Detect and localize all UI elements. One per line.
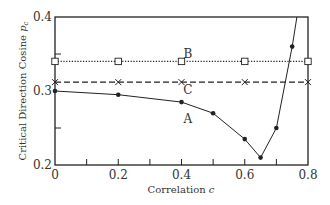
axis-ticks: 00.20.40.60.80.20.30.4 xyxy=(33,10,318,182)
curve-label-a: A xyxy=(182,112,192,126)
circle-marker xyxy=(116,92,121,97)
square-marker xyxy=(305,58,311,64)
y-tick-label: 0.2 xyxy=(33,158,52,172)
curve-label-c: C xyxy=(183,83,192,97)
circle-marker xyxy=(274,126,279,131)
plot-frame xyxy=(55,17,308,165)
circle-marker xyxy=(53,89,58,94)
x-tick-label: 0.4 xyxy=(172,168,191,182)
circle-marker xyxy=(242,137,247,142)
square-marker xyxy=(242,58,248,64)
y-axis-title: Critical Direction Cosine pc xyxy=(17,21,30,160)
series-layer xyxy=(52,17,311,160)
y-tick-label: 0.3 xyxy=(33,84,52,98)
plot-border xyxy=(55,17,308,165)
series-c xyxy=(52,79,311,85)
series-b xyxy=(52,58,311,64)
square-marker xyxy=(52,58,58,64)
y-tick-label: 0.4 xyxy=(33,10,52,24)
x-axis-title: Correlation c xyxy=(148,184,215,195)
x-tick-label: 0.6 xyxy=(235,168,254,182)
square-marker xyxy=(115,58,121,64)
circle-marker xyxy=(258,155,263,160)
curve-label-b: B xyxy=(183,47,192,61)
curve-labels: ABC xyxy=(182,47,192,126)
series-line xyxy=(55,17,297,158)
circle-marker xyxy=(179,100,184,105)
circle-marker xyxy=(211,111,216,116)
x-tick-label: 0.2 xyxy=(109,168,128,182)
x-tick-label: 0 xyxy=(51,168,59,182)
chart: 00.20.40.60.80.20.30.4 ABC Correlation c… xyxy=(0,0,330,205)
x-tick-label: 0.8 xyxy=(298,168,317,182)
series-a xyxy=(53,17,297,160)
circle-marker xyxy=(290,44,295,49)
